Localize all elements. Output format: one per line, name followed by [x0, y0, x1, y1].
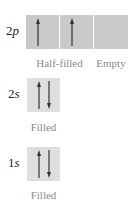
paired-spin-arrows-icon	[27, 78, 60, 112]
caption-filled-2s: Filled	[27, 121, 60, 133]
level-label-2s: 2s	[8, 86, 20, 102]
orbital-box-2p-2	[60, 15, 93, 49]
orbital-box-2p-3	[94, 15, 128, 49]
caption-half-filled: Half-filled	[26, 57, 93, 69]
level-letter: s	[15, 86, 20, 101]
level-label-2p: 2p	[6, 23, 19, 39]
level-letter: s	[15, 155, 20, 170]
orbital-box-1s	[27, 147, 60, 181]
paired-spin-arrows-icon	[27, 147, 60, 181]
caption-empty: Empty	[94, 57, 128, 69]
orbital-box-2s	[27, 78, 60, 112]
spin-up-arrow-icon	[26, 15, 59, 49]
level-letter: p	[13, 23, 20, 38]
spin-up-arrow-icon	[60, 15, 93, 49]
level-label-1s: 1s	[8, 155, 20, 171]
caption-filled-1s: Filled	[27, 189, 60, 201]
orbital-box-2p-1	[26, 15, 59, 49]
